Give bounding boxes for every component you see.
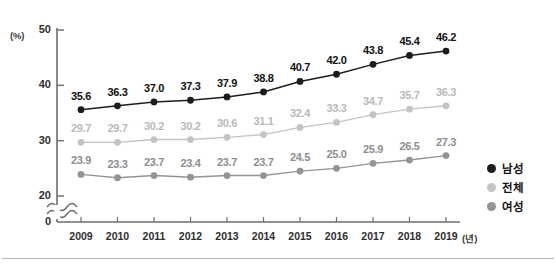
x-tick-label: 2010: [106, 230, 129, 242]
data-point-label: 26.5: [399, 140, 419, 152]
data-point-label: 27.3: [436, 136, 456, 148]
x-axis-unit-label: (년): [462, 231, 477, 245]
x-tick-label: 2014: [252, 230, 275, 242]
data-point-label: 33.3: [326, 102, 346, 114]
data-point-label: 46.2: [436, 31, 456, 43]
x-tick-label: 2009: [69, 230, 92, 242]
data-point-label: 34.7: [363, 95, 383, 107]
data-point-label: 30.6: [217, 117, 237, 129]
x-tick-label: 2011: [143, 230, 166, 242]
y-tick-label: 0: [21, 215, 51, 227]
data-point-label: 23.7: [253, 156, 273, 168]
x-tick-label: 2018: [398, 230, 421, 242]
data-point-label: 36.3: [436, 86, 456, 98]
data-point-label: 23.7: [217, 156, 237, 168]
data-point-label: 42.0: [326, 54, 346, 66]
x-tick-label: 2013: [215, 230, 238, 242]
legend-item-3[interactable]: 여성: [487, 198, 524, 214]
axis-break-squiggle: [47, 204, 77, 220]
data-point-label: 24.5: [290, 151, 310, 163]
data-point-label: 23.7: [144, 156, 164, 168]
x-tick-label: 2012: [179, 230, 202, 242]
x-tick-label: 2016: [325, 230, 348, 242]
data-point-label: 29.7: [107, 122, 127, 134]
data-point-label: 35.7: [399, 89, 419, 101]
legend-dot-icon: [487, 183, 496, 192]
x-tick-label: 2015: [288, 230, 311, 242]
data-point-label: 38.8: [253, 72, 273, 84]
y-tick-label: 30: [21, 134, 51, 146]
legend-item-1[interactable]: 남성: [487, 160, 524, 176]
data-point-label: 30.2: [144, 120, 164, 132]
chart-legend: 남성전체여성: [487, 160, 524, 214]
bottom-divider: [2, 258, 554, 259]
chart-figure: (%) 504030200 20092010201120122013201420…: [0, 0, 556, 265]
y-tick-label: 40: [21, 78, 51, 90]
data-point-label: 29.7: [71, 122, 91, 134]
data-point-label: 23.9: [71, 154, 91, 166]
y-tick-label: 50: [21, 23, 51, 35]
legend-item-2[interactable]: 전체: [487, 179, 524, 195]
legend-dot-icon: [487, 202, 496, 211]
data-point-label: 40.7: [290, 61, 310, 73]
data-point-label: 43.8: [363, 44, 383, 56]
data-point-label: 31.1: [253, 115, 273, 127]
data-point-label: 23.4: [180, 157, 200, 169]
data-point-label: 30.2: [180, 120, 200, 132]
data-point-label: 32.4: [290, 107, 310, 119]
legend-dot-icon: [487, 164, 496, 173]
x-tick-label: 2019: [434, 230, 457, 242]
data-point-label: 37.9: [217, 77, 237, 89]
legend-label: 전체: [502, 179, 524, 195]
data-point-label: 25.9: [363, 143, 383, 155]
data-point-label: 37.3: [180, 80, 200, 92]
legend-label: 여성: [502, 198, 524, 214]
data-point-label: 23.3: [107, 158, 127, 170]
data-point-label: 37.0: [144, 82, 164, 94]
y-tick-label: 20: [21, 189, 51, 201]
x-tick-label: 2017: [361, 230, 384, 242]
data-point-label: 25.0: [326, 148, 346, 160]
data-point-label: 45.4: [399, 35, 419, 47]
legend-label: 남성: [502, 160, 524, 176]
data-point-label: 36.3: [107, 86, 127, 98]
data-point-label: 35.6: [71, 90, 91, 102]
